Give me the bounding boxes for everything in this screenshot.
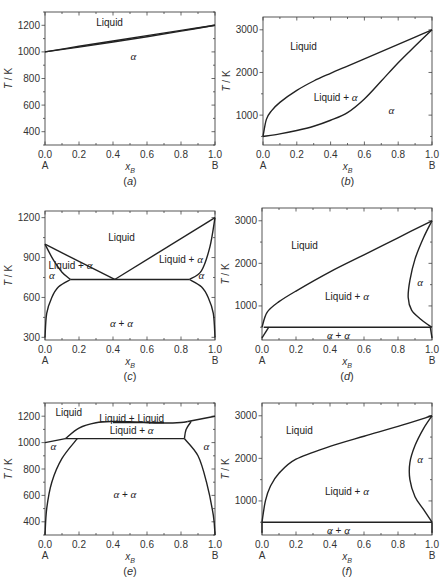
y-tick-label: 600 xyxy=(23,292,40,303)
x-axis-title: xB xyxy=(341,356,352,369)
plot-frame xyxy=(263,17,432,145)
region-label: Liquid xyxy=(291,240,318,251)
x-tick-label: 1.0 xyxy=(208,149,222,160)
plot-frame xyxy=(45,12,215,145)
panel-f: 0.00.20.40.60.81.0100020003000T / KABxB(… xyxy=(220,403,439,577)
phase-boundary-liquidus-right xyxy=(188,416,215,421)
y-tick-label: 1000 xyxy=(235,495,258,506)
region-label: Liquid + α xyxy=(325,485,369,497)
y-tick-label: 2000 xyxy=(235,258,258,269)
endpoint-label-a: A xyxy=(259,550,266,561)
x-tick-label: 0.8 xyxy=(391,539,405,550)
region-label: Liquid + α xyxy=(110,424,154,436)
x-tick-label: 0.8 xyxy=(174,344,188,355)
region-label: α xyxy=(49,269,55,281)
y-axis-title: T / K xyxy=(3,68,14,89)
y-tick-label: 1200 xyxy=(18,411,41,422)
y-tick-label: 1000 xyxy=(18,437,41,448)
y-tick-label: 900 xyxy=(23,252,40,263)
y-tick-label: 600 xyxy=(23,100,40,111)
plot-frame xyxy=(262,208,432,340)
x-tick-label: 0.6 xyxy=(357,149,371,160)
y-tick-label: 1000 xyxy=(235,300,258,311)
x-tick-label: 0.6 xyxy=(140,539,154,550)
y-tick-label: 2000 xyxy=(236,67,259,78)
region-label: Liquid xyxy=(108,232,135,243)
x-tick-label: 1.0 xyxy=(425,344,439,355)
panel-caption: (d) xyxy=(340,370,353,382)
y-axis-title: T / K xyxy=(3,265,14,286)
x-tick-label: 0.2 xyxy=(72,149,86,160)
y-tick-label: 600 xyxy=(23,490,40,501)
panel-e: 0.00.20.40.60.81.040060080010001200T / K… xyxy=(3,403,222,577)
panel-caption: (e) xyxy=(123,565,136,577)
x-tick-label: 0.6 xyxy=(357,344,371,355)
y-tick-label: 400 xyxy=(23,516,40,527)
x-tick-label: 0.2 xyxy=(289,344,303,355)
x-tick-label: 0.4 xyxy=(323,344,337,355)
panel-caption: (b) xyxy=(341,175,354,187)
x-tick-label: 0.0 xyxy=(38,344,52,355)
x-axis-title: xB xyxy=(124,551,135,564)
x-axis-title: xB xyxy=(124,161,135,174)
region-label: α + α xyxy=(113,488,136,500)
x-tick-label: 0.6 xyxy=(140,149,154,160)
x-tick-label: 0.0 xyxy=(256,149,270,160)
x-tick-label: 0.6 xyxy=(357,539,371,550)
y-tick-label: 1200 xyxy=(18,20,41,31)
endpoint-label-b: B xyxy=(212,355,219,366)
x-tick-label: 0.2 xyxy=(290,149,304,160)
region-label: α xyxy=(199,269,205,281)
y-axis-title: T / K xyxy=(220,458,231,479)
y-tick-label: 1000 xyxy=(18,46,41,57)
phase-boundary-solidus xyxy=(409,416,432,522)
region-label: Liquid + α xyxy=(159,253,203,265)
x-tick-label: 0.8 xyxy=(174,539,188,550)
region-label: Liquid + Liquid xyxy=(99,413,164,424)
x-tick-label: 0.8 xyxy=(391,149,405,160)
x-tick-label: 0.0 xyxy=(255,344,269,355)
phase-boundary-solvus-right xyxy=(190,279,216,337)
x-tick-label: 0.2 xyxy=(72,539,86,550)
region-label: Liquid + α xyxy=(49,259,93,271)
endpoint-label-a: A xyxy=(259,355,266,366)
y-tick-label: 800 xyxy=(23,73,40,84)
region-label: Liquid xyxy=(286,425,313,436)
x-tick-label: 0.4 xyxy=(323,539,337,550)
panel-caption: (f) xyxy=(342,565,352,577)
y-tick-label: 400 xyxy=(23,126,40,137)
y-tick-label: 300 xyxy=(23,332,40,343)
region-label: Liquid xyxy=(96,17,123,28)
endpoint-label-b: B xyxy=(429,160,436,171)
x-tick-label: 0.4 xyxy=(324,149,338,160)
endpoint-label-a: A xyxy=(42,160,49,171)
region-label: α xyxy=(417,453,423,465)
y-tick-label: 1200 xyxy=(18,212,41,223)
phase-boundary-solvus-left xyxy=(45,279,71,337)
y-tick-label: 800 xyxy=(23,464,40,475)
endpoint-label-b: B xyxy=(212,550,219,561)
x-tick-label: 0.0 xyxy=(38,539,52,550)
x-tick-label: 1.0 xyxy=(425,149,439,160)
x-tick-label: 0.4 xyxy=(106,149,120,160)
endpoint-label-a: A xyxy=(42,550,49,561)
phase-boundary-solvus-left xyxy=(45,439,77,535)
region-label: α + α xyxy=(327,524,350,536)
x-tick-label: 0.4 xyxy=(106,539,120,550)
plot-frame xyxy=(262,403,432,535)
y-axis-title: T / K xyxy=(221,70,232,91)
endpoint-label-a: A xyxy=(42,355,49,366)
phase-boundary-solidus xyxy=(408,221,432,327)
phase-boundary-liquidus xyxy=(262,221,432,327)
phase-boundary-solvus-right xyxy=(184,439,215,535)
x-tick-label: 0.6 xyxy=(140,344,154,355)
y-tick-label: 2000 xyxy=(235,453,258,464)
y-axis-title: T / K xyxy=(220,263,231,284)
x-axis-title: xB xyxy=(341,551,352,564)
endpoint-label-b: B xyxy=(429,550,436,561)
y-tick-label: 3000 xyxy=(235,215,258,226)
panel-d: 0.00.20.40.60.81.0100020003000T / KABxB(… xyxy=(220,208,439,382)
x-tick-label: 1.0 xyxy=(208,539,222,550)
region-label: Liquid + α xyxy=(325,290,369,302)
panel-a: 0.00.20.40.60.81.040060080010001200T / K… xyxy=(3,12,222,187)
